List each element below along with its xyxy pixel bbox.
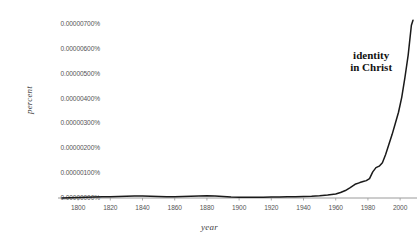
data-line-identity-in-christ (62, 20, 413, 198)
plot-area (0, 0, 419, 241)
series-annotation: identity in Christ (323, 49, 419, 74)
ngram-chart: percent year 0.00000700%0.00000600%0.000… (0, 0, 419, 241)
annotation-line-1: identity (323, 49, 419, 62)
annotation-line-2: in Christ (323, 61, 419, 74)
